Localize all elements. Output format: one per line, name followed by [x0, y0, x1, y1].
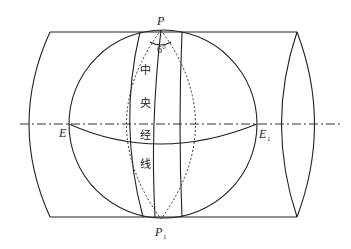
- label-e1: E: [258, 127, 267, 141]
- label-p1: P: [154, 225, 163, 239]
- label-e: E: [58, 126, 67, 140]
- label-p1-subscript: 1: [163, 233, 167, 241]
- label-zone-width: 6°: [157, 44, 166, 55]
- projection-diagram: P P 1 E E 1 6° 中 央 经 线: [0, 0, 351, 249]
- equator-curve: [69, 124, 257, 144]
- central-meridian-char-3: 经: [140, 129, 151, 142]
- central-meridian-char-2: 央: [140, 97, 151, 110]
- central-meridian-char-4: 线: [140, 157, 151, 171]
- central-meridian-char-1: 中: [140, 64, 151, 77]
- label-p: P: [156, 14, 165, 28]
- label-e1-subscript: 1: [267, 135, 271, 143]
